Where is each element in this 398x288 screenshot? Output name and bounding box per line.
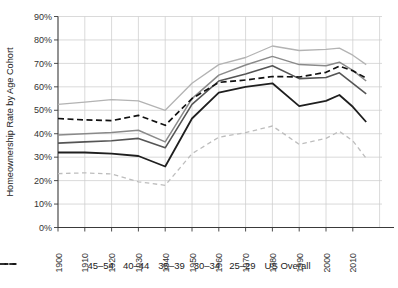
y-tick-label: 80% xyxy=(34,35,52,45)
y-tick-label: 0% xyxy=(39,223,52,233)
legend-label: 25–29 xyxy=(229,260,255,271)
series-layer xyxy=(58,46,366,185)
series-line-25-29 xyxy=(58,126,366,185)
legend-swatch xyxy=(0,260,17,268)
axis-layer xyxy=(54,17,394,232)
legend-item-30-34: 30–34 xyxy=(194,260,220,271)
series-line-us-overall xyxy=(58,66,366,125)
y-axis-title: Homeownership Rate by Age Cohort xyxy=(5,47,15,197)
legend-item-35-39: 35–39 xyxy=(158,260,184,271)
legend: 45–5440–4435–3930–3425–29US Overall xyxy=(0,260,398,271)
legend-item-45-54: 45–54 xyxy=(87,260,113,271)
legend-label: 35–39 xyxy=(158,260,184,271)
legend-label: US Overall xyxy=(265,260,311,271)
legend-label: 40–44 xyxy=(123,260,149,271)
y-tick-label: 90% xyxy=(34,12,52,22)
y-tick-label: 20% xyxy=(34,176,52,186)
legend-label: 45–54 xyxy=(87,260,113,271)
y-tick-label: 30% xyxy=(34,152,52,162)
series-line-35-39 xyxy=(58,66,366,148)
legend-item-40-44: 40–44 xyxy=(123,260,149,271)
chart-figure: 0%10%20%30%40%50%60%70%80%90%19001910192… xyxy=(0,0,398,288)
legend-label: 30–34 xyxy=(194,260,220,271)
y-tick-label: 60% xyxy=(34,82,52,92)
plot-svg: 0%10%20%30%40%50%60%70%80%90%19001910192… xyxy=(0,0,398,288)
y-tick-label: 40% xyxy=(34,129,52,139)
series-line-30-34 xyxy=(58,83,366,166)
legend-item-25-29: 25–29 xyxy=(229,260,255,271)
y-tick-label: 10% xyxy=(34,199,52,209)
legend-item-us-overall: US Overall xyxy=(265,260,311,271)
y-tick-label: 70% xyxy=(34,59,52,69)
y-tick-label: 50% xyxy=(34,105,52,115)
